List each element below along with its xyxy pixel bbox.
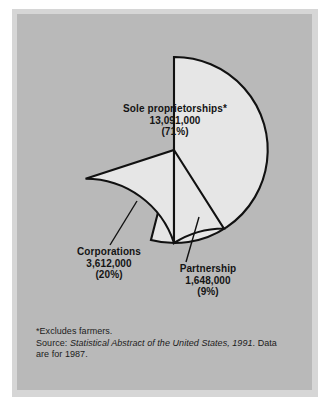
pie-label-corporations-value: 3,612,000 [52, 258, 166, 270]
pie-label-sole-value: 13,091,000 [97, 115, 253, 127]
footnote-source-prefix: Source: [36, 338, 70, 348]
pie-label-partnership-value: 1,648,000 [153, 275, 263, 287]
footnote-data-year: are for 1987. [36, 349, 294, 361]
pie-label-corporations: Corporations 3,612,000 (20%) [52, 246, 166, 281]
footnote-block: *Excludes farmers. Source: Statistical A… [36, 326, 294, 361]
pie-label-corporations-name: Corporations [52, 246, 166, 258]
pie-label-corporations-percent: (20%) [52, 269, 166, 281]
footnote-source: Source: Statistical Abstract of the Unit… [36, 338, 294, 350]
pie-label-sole-name: Sole proprietorships* [97, 103, 253, 115]
pie-label-sole-proprietorships: Sole proprietorships* 13,091,000 (71%) [97, 103, 253, 138]
pie-label-partnership-name: Partnership [153, 263, 263, 275]
pie-label-partnership-percent: (9%) [153, 286, 263, 298]
pie-label-sole-percent: (71%) [97, 126, 253, 138]
footnote-source-title: Statistical Abstract of the United State… [70, 338, 253, 348]
footnote-source-suffix: . Data [253, 338, 277, 348]
pie-label-partnership: Partnership 1,648,000 (9%) [153, 263, 263, 298]
leader-line-corporations [110, 201, 137, 245]
figure-container: Sole proprietorships* 13,091,000 (71%) C… [0, 0, 327, 406]
footnote-excludes-farmers: *Excludes farmers. [36, 326, 294, 338]
